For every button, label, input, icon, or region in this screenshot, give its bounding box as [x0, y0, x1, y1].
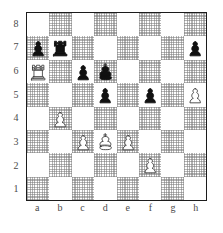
empty-square-a5[interactable]: [27, 83, 49, 106]
empty-square-g5[interactable]: [161, 83, 183, 106]
empty-square-g7[interactable]: [161, 36, 183, 59]
empty-square-c8[interactable]: [72, 13, 94, 36]
piece-white-pawn-c3[interactable]: [72, 130, 94, 153]
file-label-f: f: [139, 203, 162, 219]
rank-label-1: 1: [8, 177, 24, 201]
piece-white-pawn-b4[interactable]: [49, 107, 71, 130]
black-pawn-icon: [139, 83, 161, 106]
empty-square-b8[interactable]: [49, 13, 71, 36]
empty-square-e5[interactable]: [117, 83, 139, 106]
empty-square-b5[interactable]: [49, 83, 71, 106]
empty-square-d7[interactable]: [94, 36, 116, 59]
board-pieces: [27, 13, 206, 200]
empty-square-g2[interactable]: [161, 153, 183, 176]
empty-square-a2[interactable]: [27, 153, 49, 176]
piece-black-king-d6[interactable]: [94, 60, 116, 83]
empty-square-c5[interactable]: [72, 83, 94, 106]
empty-square-f4[interactable]: [139, 107, 161, 130]
empty-square-c4[interactable]: [72, 107, 94, 130]
rank-label-4: 4: [8, 107, 24, 131]
empty-square-e6[interactable]: [117, 60, 139, 83]
file-label-b: b: [49, 203, 72, 219]
white-pawn-icon: [117, 130, 139, 153]
empty-square-c2[interactable]: [72, 153, 94, 176]
black-rook-icon: [49, 36, 71, 59]
file-label-c: c: [71, 203, 94, 219]
rank-label-7: 7: [8, 36, 24, 60]
file-label-h: h: [184, 203, 207, 219]
empty-square-d4[interactable]: [94, 107, 116, 130]
chess-diagram: 87654321 abcdefgh: [0, 0, 223, 233]
piece-black-pawn-f5[interactable]: [139, 83, 161, 106]
piece-black-rook-b7[interactable]: [49, 36, 71, 59]
black-pawn-icon: [184, 36, 206, 59]
piece-black-pawn-d5[interactable]: [94, 83, 116, 106]
rank-label-2: 2: [8, 154, 24, 178]
empty-square-g8[interactable]: [161, 13, 183, 36]
white-pawn-icon: [72, 130, 94, 153]
empty-square-b3[interactable]: [49, 130, 71, 153]
rank-label-6: 6: [8, 59, 24, 83]
white-pawn-icon: [184, 83, 206, 106]
file-label-e: e: [117, 203, 140, 219]
rank-label-3: 3: [8, 130, 24, 154]
piece-white-king-d3[interactable]: [94, 130, 116, 153]
file-label-d: d: [94, 203, 117, 219]
empty-square-h3[interactable]: [184, 130, 206, 153]
rank-label-5: 5: [8, 83, 24, 107]
white-pawn-icon: [139, 153, 161, 176]
piece-white-pawn-f2[interactable]: [139, 153, 161, 176]
empty-square-c7[interactable]: [72, 36, 94, 59]
empty-square-f7[interactable]: [139, 36, 161, 59]
file-label-g: g: [162, 203, 185, 219]
file-labels: abcdefgh: [26, 203, 207, 219]
white-king-icon: [94, 130, 116, 153]
empty-square-g3[interactable]: [161, 130, 183, 153]
empty-square-c1[interactable]: [72, 177, 94, 200]
empty-square-a8[interactable]: [27, 13, 49, 36]
white-rook-icon: [27, 60, 49, 83]
black-pawn-icon: [94, 83, 116, 106]
chess-board[interactable]: [26, 12, 207, 201]
black-king-icon: [94, 60, 116, 83]
empty-square-f1[interactable]: [139, 177, 161, 200]
piece-white-pawn-e3[interactable]: [117, 130, 139, 153]
empty-square-h8[interactable]: [184, 13, 206, 36]
file-label-a: a: [26, 203, 49, 219]
black-pawn-icon: [27, 36, 49, 59]
empty-square-g6[interactable]: [161, 60, 183, 83]
empty-square-f8[interactable]: [139, 13, 161, 36]
piece-black-pawn-c6[interactable]: [72, 60, 94, 83]
empty-square-a3[interactable]: [27, 130, 49, 153]
empty-square-e4[interactable]: [117, 107, 139, 130]
empty-square-f3[interactable]: [139, 130, 161, 153]
piece-black-pawn-h7[interactable]: [184, 36, 206, 59]
empty-square-g1[interactable]: [161, 177, 183, 200]
empty-square-b6[interactable]: [49, 60, 71, 83]
piece-black-pawn-a7[interactable]: [27, 36, 49, 59]
empty-square-b2[interactable]: [49, 153, 71, 176]
empty-square-e8[interactable]: [117, 13, 139, 36]
empty-square-g4[interactable]: [161, 107, 183, 130]
empty-square-e2[interactable]: [117, 153, 139, 176]
empty-square-a4[interactable]: [27, 107, 49, 130]
rank-labels: 87654321: [8, 12, 24, 201]
empty-square-h2[interactable]: [184, 153, 206, 176]
empty-square-d2[interactable]: [94, 153, 116, 176]
empty-square-d8[interactable]: [94, 13, 116, 36]
black-pawn-icon: [72, 60, 94, 83]
piece-white-rook-a6[interactable]: [27, 60, 49, 83]
empty-square-e1[interactable]: [117, 177, 139, 200]
piece-white-pawn-h5[interactable]: [184, 83, 206, 106]
empty-square-h6[interactable]: [184, 60, 206, 83]
white-pawn-icon: [49, 107, 71, 130]
empty-square-f6[interactable]: [139, 60, 161, 83]
empty-square-b1[interactable]: [49, 177, 71, 200]
empty-square-h1[interactable]: [184, 177, 206, 200]
rank-label-8: 8: [8, 12, 24, 36]
empty-square-e7[interactable]: [117, 36, 139, 59]
empty-square-a1[interactable]: [27, 177, 49, 200]
empty-square-d1[interactable]: [94, 177, 116, 200]
empty-square-h4[interactable]: [184, 107, 206, 130]
